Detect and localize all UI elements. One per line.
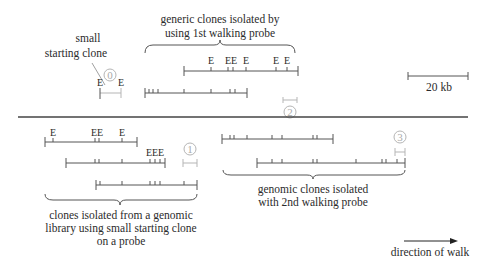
ecori-site-label: E (243, 55, 249, 66)
second-walk-label-line2: with 2nd walking probe (258, 196, 368, 209)
probe-0-label: 0 (107, 69, 113, 81)
direction-arrow (404, 238, 458, 244)
library-label-line1: clones isolated from a genomic (49, 209, 193, 222)
clone-library-2: E E E (66, 147, 165, 168)
probe-1: 1 (183, 143, 197, 167)
clone-first-walk-b (145, 88, 247, 98)
ecori-site-label: E (119, 127, 125, 138)
arrow-head-icon (450, 238, 458, 244)
clone-first-walk-a: E E E E E E (184, 55, 298, 76)
ecori-site-label: E (50, 127, 56, 138)
ecori-site-label: E (231, 55, 237, 66)
clone-library-1: E E E E (45, 127, 137, 147)
ecori-site-label: E (208, 55, 214, 66)
chromosome-walk-diagram: small starting clone generic clones isol… (0, 0, 494, 268)
second-walk-bracket (223, 170, 405, 179)
ecori-site-label: E (97, 77, 103, 88)
probe-2-label: 2 (287, 106, 293, 118)
clone-second-walk-b (257, 158, 405, 168)
scale-label: 20 kb (426, 81, 452, 93)
ecori-site-label: E (118, 77, 124, 88)
probe-3-label: 3 (397, 131, 403, 143)
ecori-site-label: E (97, 127, 103, 138)
library-label-line2: library using small starting clone (45, 222, 196, 235)
library-label-line3: on a probe (97, 235, 146, 248)
first-walk-bracket (145, 40, 295, 53)
first-walk-label-line2: using 1st walking probe (165, 27, 275, 40)
scale-bar: 20 kb (408, 72, 468, 93)
library-bracket (45, 194, 197, 205)
direction-label: direction of walk (391, 246, 470, 258)
probe-1-label: 1 (187, 143, 193, 155)
clone-library-3 (96, 180, 197, 190)
second-walk-label-line1: genomic clones isolated (258, 183, 369, 196)
probe-3: 3 (394, 131, 406, 156)
clone-second-walk-a (222, 134, 333, 144)
ecori-site-label: E (284, 55, 290, 66)
probe-2: 2 (283, 97, 297, 118)
small-clone-label-line1: small (76, 32, 101, 44)
small-clone-label-line2: starting clone (45, 47, 107, 60)
first-walk-label-line1: generic clones isolated by (160, 13, 279, 26)
ecori-site-label: E (158, 147, 164, 158)
ecori-site-label: E (273, 55, 279, 66)
